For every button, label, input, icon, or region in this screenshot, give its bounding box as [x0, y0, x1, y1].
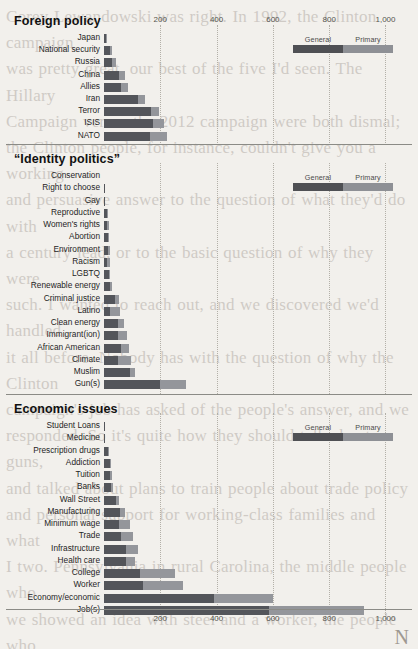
- bar-row: Clean energy: [0, 318, 418, 329]
- bar-segment-general: [104, 331, 118, 340]
- bar-row: ISIS: [0, 118, 418, 129]
- bar-row: Prescription drugs: [0, 446, 418, 457]
- bar-segment-general: [104, 184, 105, 193]
- bar-category-label: Iran: [0, 93, 100, 104]
- stacked-bar: [104, 95, 145, 104]
- bar-category-label: Renewable energy: [0, 280, 100, 291]
- bar-category-label: College: [0, 567, 100, 578]
- bar-row: Student Loans: [0, 421, 418, 432]
- stacked-bar: [104, 569, 175, 578]
- stacked-bar: [104, 520, 130, 529]
- bar-segment-general: [104, 132, 150, 141]
- bar-segment-general: [104, 483, 111, 492]
- stacked-bar: [104, 422, 105, 431]
- bar-row: Latino: [0, 306, 418, 317]
- bar-category-label: Women's rights: [0, 219, 100, 230]
- stacked-bar: [104, 331, 127, 340]
- bar-category-label: Wall Street: [0, 494, 100, 505]
- bar-segment-primary: [107, 209, 108, 218]
- stacked-bar: [104, 258, 110, 267]
- bar-segment-primary: [109, 270, 111, 279]
- bar-row: Muslim: [0, 367, 418, 378]
- bar-row: Conservation: [0, 171, 418, 182]
- bar-row: Criminal justice: [0, 294, 418, 305]
- bar-segment-primary: [140, 569, 175, 578]
- bar-segment-general: [104, 496, 116, 505]
- bar-row: Infrastructure: [0, 544, 418, 555]
- bar-segment-primary: [115, 295, 119, 304]
- stacked-bar: [104, 132, 167, 141]
- section-divider: [6, 144, 412, 145]
- bar-category-label: Economy/economic: [0, 592, 100, 603]
- stacked-bar: [104, 557, 135, 566]
- stacked-bar: [104, 496, 119, 505]
- bar-segment-general: [104, 95, 138, 104]
- bar-category-label: Immigrant(ion): [0, 329, 100, 340]
- bar-category-label: Trade: [0, 530, 100, 541]
- bar-category-label: Student Loans: [0, 420, 100, 431]
- section-divider: [6, 394, 412, 395]
- bar-row: Tuition: [0, 470, 418, 481]
- stacked-bar: [104, 83, 128, 92]
- stacked-bar: [104, 295, 119, 304]
- stacked-bar: [104, 107, 159, 116]
- bar-segment-general: [104, 319, 118, 328]
- bar-segment-primary: [107, 258, 110, 267]
- bar-category-label: Prescription drugs: [0, 445, 100, 456]
- bar-category-label: Worker: [0, 579, 100, 590]
- x-axis-line: [6, 609, 412, 610]
- bar-category-label: Manufacturing: [0, 506, 100, 517]
- bar-segment-primary: [110, 46, 112, 55]
- bar-row: Abortion: [0, 232, 418, 243]
- bar-category-label: Gay: [0, 195, 100, 206]
- stacked-bar: [104, 380, 186, 389]
- bar-segment-general: [104, 569, 140, 578]
- stacked-bar: [104, 545, 138, 554]
- stacked-bar: [104, 459, 110, 468]
- bar-row: Manufacturing: [0, 507, 418, 518]
- bar-category-label: Japan: [0, 32, 100, 43]
- x-axis-tick-label: 200: [154, 15, 167, 24]
- bar-segment-primary: [121, 83, 127, 92]
- bar-segment-general: [104, 83, 121, 92]
- bar-row: Racism: [0, 257, 418, 268]
- stacked-bar: [104, 71, 125, 80]
- bar-row: Renewable energy: [0, 281, 418, 292]
- bar-segment-general: [104, 368, 130, 377]
- bar-category-label: Tuition: [0, 469, 100, 480]
- stacked-bar: [104, 270, 110, 279]
- stacked-bar: [104, 434, 105, 443]
- stacked-bar: [104, 233, 109, 242]
- stacked-bar: [104, 471, 112, 480]
- bar-segment-primary: [214, 594, 273, 603]
- bar-segment-primary: [138, 95, 145, 104]
- bar-segment-primary: [150, 132, 167, 141]
- bar-category-label: Gun(s): [0, 378, 100, 389]
- bar-segment-general: [104, 520, 119, 529]
- stacked-bar: [104, 447, 109, 456]
- bar-category-label: Latino: [0, 305, 100, 316]
- bar-segment-primary: [269, 606, 365, 615]
- bar-category-label: LGBTQ: [0, 268, 100, 279]
- bar-category-label: Right to choose: [0, 182, 100, 193]
- bar-segment-general: [104, 594, 214, 603]
- bar-segment-primary: [118, 319, 124, 328]
- bar-segment-general: [104, 434, 105, 443]
- bar-segment-general: [104, 557, 126, 566]
- bar-row: African American: [0, 343, 418, 354]
- bar-segment-primary: [118, 331, 126, 340]
- bar-segment-primary: [106, 34, 107, 43]
- bar-row: Minimum wage: [0, 519, 418, 530]
- bar-segment-primary: [126, 557, 135, 566]
- bar-row: Gun(s): [0, 379, 418, 390]
- bar-segment-primary: [143, 581, 183, 590]
- bar-segment-primary: [112, 58, 116, 67]
- stacked-bar: [104, 307, 120, 316]
- stacked-bar: [104, 483, 113, 492]
- stacked-bar: [104, 356, 131, 365]
- bar-segment-general: [104, 606, 269, 615]
- bar-segment-primary: [108, 447, 109, 456]
- bar-row: National security: [0, 45, 418, 56]
- stacked-bar: [104, 344, 129, 353]
- bar-segment-general: [104, 58, 112, 67]
